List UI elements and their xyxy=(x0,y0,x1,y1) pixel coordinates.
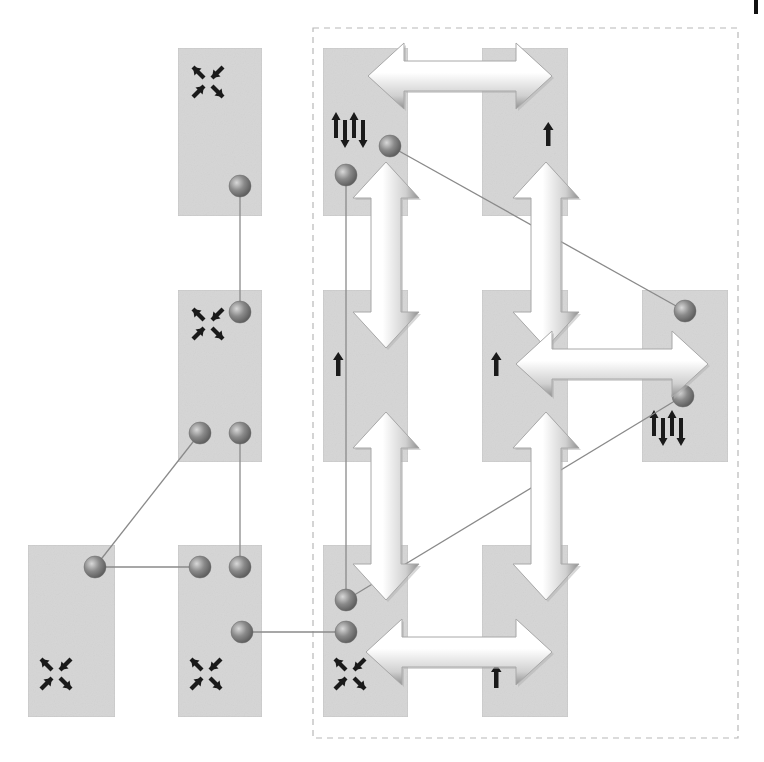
arrow-body xyxy=(513,412,579,600)
port-sphere[interactable] xyxy=(229,301,251,323)
arrow-body xyxy=(513,162,579,348)
exchange-arrow xyxy=(353,412,421,602)
port-sphere[interactable] xyxy=(229,556,251,578)
port-sphere[interactable] xyxy=(674,300,696,322)
nodes-layer xyxy=(28,48,728,717)
exchange-arrow xyxy=(353,162,421,350)
arrow-body xyxy=(516,331,708,397)
diagram-canvas xyxy=(0,0,764,762)
port-sphere[interactable] xyxy=(229,175,251,197)
port-sphere[interactable] xyxy=(189,422,211,444)
port-sphere[interactable] xyxy=(84,556,106,578)
arrow-body xyxy=(353,412,419,600)
exchange-arrow xyxy=(513,162,581,350)
exchange-arrow xyxy=(366,619,554,687)
exchange-arrow xyxy=(513,412,581,602)
port-sphere[interactable] xyxy=(335,589,357,611)
diagram-svg xyxy=(0,0,764,762)
corner-mark xyxy=(754,0,758,14)
port-sphere[interactable] xyxy=(231,621,253,643)
port-sphere[interactable] xyxy=(229,422,251,444)
port-sphere[interactable] xyxy=(189,556,211,578)
exchange-arrow xyxy=(516,331,710,399)
exchange-arrow xyxy=(368,43,554,111)
arrow-body xyxy=(353,162,419,348)
port-sphere[interactable] xyxy=(335,621,357,643)
arrow-body xyxy=(366,619,552,685)
port-sphere[interactable] xyxy=(379,135,401,157)
port-sphere[interactable] xyxy=(335,164,357,186)
arrow-body xyxy=(368,43,552,109)
